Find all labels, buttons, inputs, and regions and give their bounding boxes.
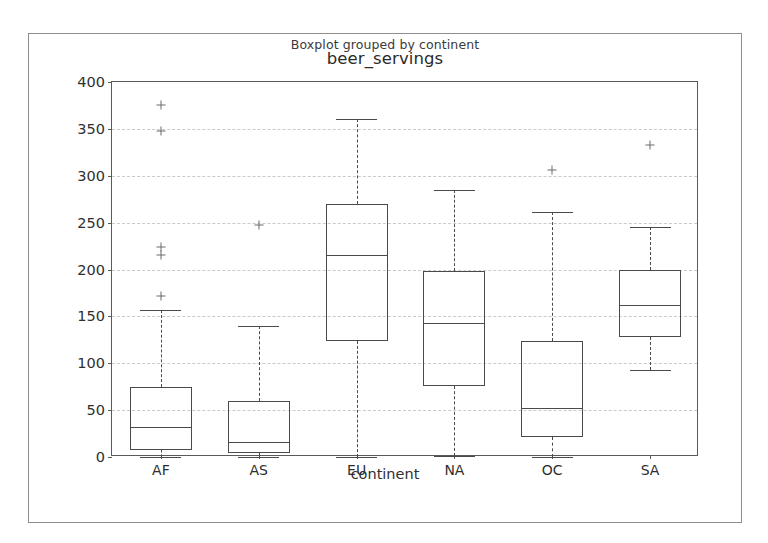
outlier-marker: [646, 140, 655, 149]
box-group-sa: [112, 82, 697, 455]
x-axis-label: continent: [29, 466, 741, 482]
y-tick-label: 0: [96, 449, 105, 465]
plot-area: 050100150200250300350400 AFASEUNAOCSA: [111, 81, 698, 456]
cap-upper: [630, 227, 671, 228]
y-tick-label: 200: [77, 262, 105, 278]
y-tick-label: 350: [77, 121, 105, 137]
whisker-lower: [650, 337, 651, 370]
cap-lower: [140, 457, 181, 458]
y-tick-label: 400: [77, 74, 105, 90]
y-tick-label: 150: [77, 308, 105, 324]
x-tick-mark: [650, 455, 651, 459]
cap-lower: [238, 457, 279, 458]
figure-frame: Boxplot grouped by continent beer_servin…: [28, 33, 742, 523]
y-tick-label: 300: [77, 168, 105, 184]
cap-lower: [434, 456, 475, 457]
whisker-upper: [650, 227, 651, 270]
y-tick-label: 100: [77, 355, 105, 371]
y-tick-label: 250: [77, 215, 105, 231]
axes-title: beer_servings: [29, 49, 741, 68]
median-line: [619, 305, 681, 306]
cap-lower: [336, 457, 377, 458]
y-tick-label: 50: [87, 402, 105, 418]
cap-lower: [630, 370, 671, 371]
y-tick-mark: [108, 457, 112, 458]
box-iqr: [619, 270, 681, 337]
cap-lower: [532, 457, 573, 458]
